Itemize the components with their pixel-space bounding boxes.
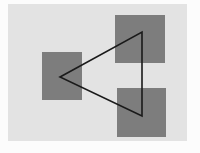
- figure-canvas: [0, 0, 200, 153]
- figure-svg: [0, 0, 200, 153]
- top-right-square: [115, 15, 165, 63]
